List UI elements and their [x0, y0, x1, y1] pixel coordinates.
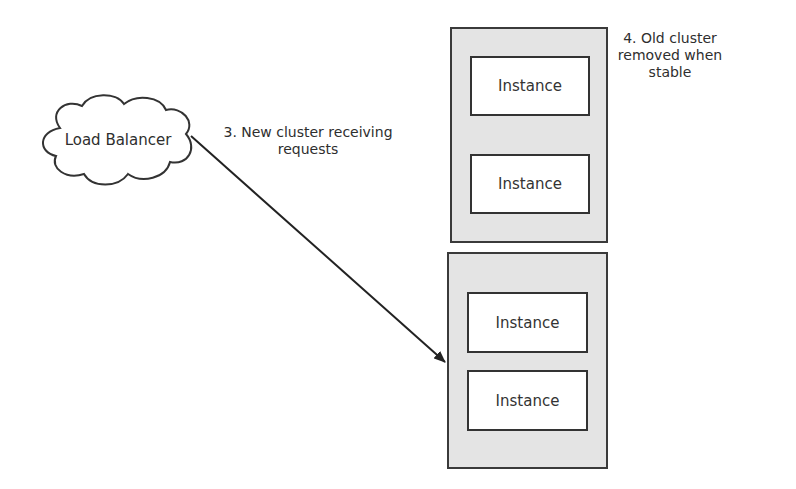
instance-label: Instance — [498, 175, 562, 193]
new-cluster-annotation: 3. New cluster receiving requests — [208, 124, 408, 158]
old-cluster: Instance Instance — [450, 27, 608, 243]
new-cluster: Instance Instance — [447, 252, 608, 469]
new-instance-1: Instance — [467, 292, 588, 353]
old-cluster-annotation: 4. Old cluster removed when stable — [610, 30, 730, 81]
instance-label: Instance — [498, 77, 562, 95]
new-instance-2: Instance — [467, 370, 588, 431]
request-arrow — [191, 136, 445, 362]
annotation-line: 3. New cluster receiving — [208, 124, 408, 141]
old-instance-2: Instance — [470, 154, 590, 214]
annotation-line: stable — [610, 64, 730, 81]
annotation-line: removed when — [610, 47, 730, 64]
instance-label: Instance — [496, 392, 560, 410]
load-balancer-label: Load Balancer — [48, 132, 188, 149]
annotation-line: 4. Old cluster — [610, 30, 730, 47]
instance-label: Instance — [496, 314, 560, 332]
old-instance-1: Instance — [470, 56, 590, 116]
annotation-line: requests — [208, 141, 408, 158]
